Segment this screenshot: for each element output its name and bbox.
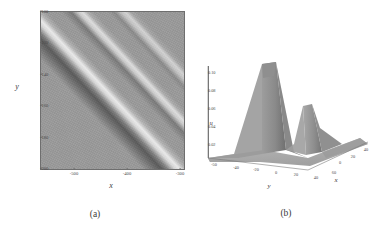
tick-label-b-x-1: 20 bbox=[351, 154, 355, 159]
tick-label-a-x-1: -400 bbox=[123, 171, 131, 176]
soliton-bands bbox=[40, 11, 185, 170]
axis-label-b-x: x bbox=[334, 176, 337, 184]
axis-label-a-x: x bbox=[109, 181, 113, 190]
tick-label-b-x-2: 40 bbox=[364, 147, 368, 152]
axis-label-b-u: u bbox=[209, 119, 212, 126]
tick-label-a-x-0: -500 bbox=[70, 171, 78, 176]
tick-label-b-y-1: -40 bbox=[233, 165, 239, 170]
surface-mesh bbox=[190, 58, 377, 188]
axis-label-a-y: y bbox=[15, 82, 19, 91]
tick-label-b-y-3: 0 bbox=[275, 170, 277, 175]
caption-b: (b) bbox=[280, 208, 291, 218]
tick-label-a-x-2: -300 bbox=[176, 171, 184, 176]
tick-label-b-y-0: -50 bbox=[211, 162, 217, 167]
tick-label-b-y-6: 60 bbox=[332, 170, 336, 175]
surface-plot-b: 0.10 0.08 0.06 0.04 0.02 -50 -40 -20 0 2… bbox=[190, 58, 377, 188]
density-plot-a bbox=[40, 11, 185, 170]
tick-label-b-y-4: 20 bbox=[294, 172, 298, 177]
figure-container: -100 -120 -140 -160 -180 -200 -500 -400 … bbox=[0, 0, 377, 232]
axis-label-b-y: y bbox=[267, 182, 270, 190]
panel-b: 0.10 0.08 0.06 0.04 0.02 -50 -40 -20 0 2… bbox=[190, 0, 377, 232]
panel-a: -100 -120 -140 -160 -180 -200 -500 -400 … bbox=[0, 0, 190, 232]
tick-label-b-y-2: -20 bbox=[253, 167, 259, 172]
caption-a: (a) bbox=[90, 209, 101, 219]
tick-label-b-y-5: 40 bbox=[314, 175, 318, 180]
tick-label-b-x-0: 0 bbox=[339, 160, 341, 165]
